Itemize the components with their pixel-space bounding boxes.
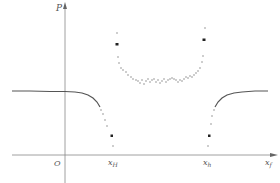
origin-label: O <box>54 159 61 168</box>
x-axis-label: xf <box>265 158 274 169</box>
diagram-canvas: P O xH xh xf <box>0 0 280 183</box>
x-axis-sub: f <box>269 161 274 169</box>
y-axis-label: P <box>55 3 63 13</box>
y-axis-arrow-icon <box>63 2 67 9</box>
x-axis-arrow-icon <box>270 153 278 157</box>
right-points <box>207 109 214 146</box>
center-points <box>116 27 206 84</box>
left-curve <box>12 91 100 107</box>
x-tick-sub: H <box>112 161 119 168</box>
right-curve <box>215 91 268 107</box>
x-tick-sub: h <box>208 161 212 168</box>
left-points <box>100 109 113 146</box>
x-tick-label-h: xh <box>203 158 212 168</box>
x-tick-label-H: xH <box>108 158 119 168</box>
